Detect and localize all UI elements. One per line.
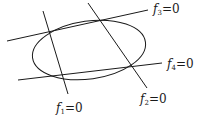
- label-f2: f2=0: [139, 92, 167, 107]
- line-f1: [43, 11, 68, 94]
- conic-lines-diagram: f1=0f2=0f3=0f4=0: [0, 0, 204, 120]
- line-f2: [88, 3, 147, 88]
- line-f3: [7, 10, 148, 41]
- lines-group: [7, 3, 162, 94]
- label-f3: f3=0: [152, 2, 180, 17]
- label-f4: f4=0: [166, 57, 194, 72]
- label-f1: f1=0: [55, 101, 83, 116]
- line-f4: [18, 63, 162, 80]
- labels-group: f1=0f2=0f3=0f4=0: [55, 2, 194, 116]
